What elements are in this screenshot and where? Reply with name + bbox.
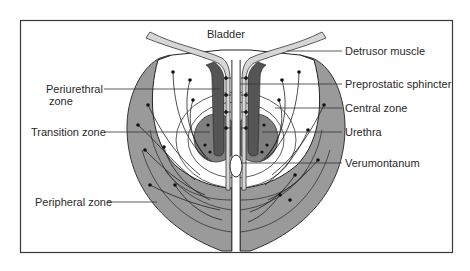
label-bladder: Bladder xyxy=(207,28,245,40)
label-verumontanum: Verumontanum xyxy=(345,157,420,169)
label-peripheral-zone: Peripheral zone xyxy=(35,196,112,208)
label-preprostatic-sphincter: Preprostatic sphincter xyxy=(345,78,451,90)
label-urethra: Urethra xyxy=(345,126,382,138)
prostate-zones-diagram: Bladder Periurethral zone Transition zon… xyxy=(0,0,470,271)
label-transition-zone: Transition zone xyxy=(31,126,106,138)
verumontanum xyxy=(230,155,242,177)
label-periurethral-line2: zone xyxy=(46,95,103,107)
label-detrusor-muscle: Detrusor muscle xyxy=(345,45,425,57)
label-periurethral-zone: Periurethral zone xyxy=(46,83,103,107)
label-periurethral-line1: Periurethral xyxy=(46,83,103,95)
label-central-zone: Central zone xyxy=(345,102,407,114)
